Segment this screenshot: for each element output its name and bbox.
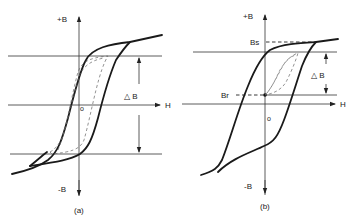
minus-b-label: -B xyxy=(244,182,252,191)
panel-a: +B -B H △ B o (a) xyxy=(8,15,171,215)
delta-b-label: △ B xyxy=(311,71,325,80)
outer-hysteresis-loop xyxy=(201,39,338,175)
h-axis-label: H xyxy=(340,100,346,109)
panel-b: +B -B H △ B Bs Br o (b) xyxy=(182,12,346,211)
bs-label: Bs xyxy=(250,38,259,47)
h-axis-label: H xyxy=(165,101,171,110)
plus-b-label: +B xyxy=(57,15,67,24)
minor-loop-inner xyxy=(267,55,296,93)
outer-loop-return xyxy=(218,42,316,172)
br-label: Br xyxy=(221,91,229,100)
minor-loop xyxy=(265,53,298,95)
origin-label: o xyxy=(80,105,84,112)
panel-b-caption: (b) xyxy=(260,202,270,211)
delta-b-label: △ B xyxy=(124,92,138,101)
minus-b-label: -B xyxy=(58,185,66,194)
outer-loop-return xyxy=(30,42,130,166)
plus-b-label: +B xyxy=(243,12,253,21)
panel-a-caption: (a) xyxy=(74,206,84,215)
hysteresis-figure: +B -B H △ B o (a) +B -B H △ B xyxy=(0,0,354,223)
origin-label: o xyxy=(267,115,271,122)
